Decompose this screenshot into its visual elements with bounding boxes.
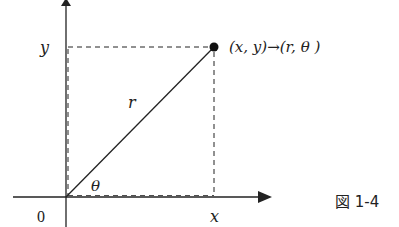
x-axis-arrowhead-icon [258,191,272,203]
y-value-label: y [39,38,50,57]
x-value-label: x [210,207,219,226]
polar-coordinate-diagram: y x 0 r θ (x, y)→(r, θ ) 図 1-4 [0,0,399,227]
origin-label: 0 [37,208,45,225]
angle-label: θ [91,177,100,195]
radius-line [66,47,214,197]
radius-label: r [128,93,137,112]
point-marker [210,43,219,52]
figure-caption: 図 1-4 [335,193,379,211]
point-coordinates-label: (x, y)→(r, θ ) [229,38,320,56]
y-axis-arrowhead-icon [61,0,71,6]
